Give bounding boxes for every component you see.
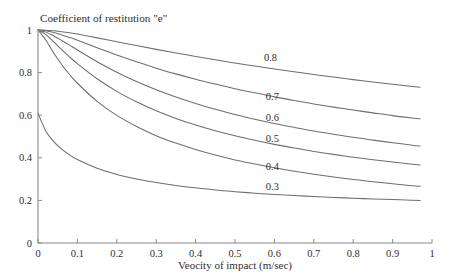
- x-tick-label: 0.9: [386, 248, 399, 259]
- x-tick-label: 0.3: [150, 248, 163, 259]
- restitution-coefficient-chart: Coefficient of restitution "e" 00.10.20.…: [0, 0, 452, 280]
- y-tick-label: 1: [27, 25, 32, 36]
- x-tick-label: 0.4: [189, 248, 203, 259]
- y-tick-label: 0.2: [19, 195, 32, 206]
- x-axis-label: Veocity of impact (m/sec): [178, 259, 292, 272]
- x-tick-label: 0.7: [307, 248, 320, 259]
- x-tick-label: 1: [429, 248, 434, 259]
- x-tick-label: 0.2: [110, 248, 123, 259]
- curve-label-0-8: 0.8: [264, 52, 277, 63]
- y-tick-label: 0: [27, 238, 32, 249]
- x-tick-label: 0.5: [228, 248, 241, 259]
- x-tick-label: 0.1: [71, 248, 84, 259]
- y-tick-label: 0.8: [19, 67, 32, 78]
- curve-label-0-3: 0.3: [266, 181, 279, 192]
- curve-label-0-6: 0.6: [266, 112, 279, 123]
- y-tick-label: 0.4: [19, 152, 33, 163]
- curve-label-0-4: 0.4: [266, 161, 280, 172]
- chart-figure: Coefficient of restitution "e" 00.10.20.…: [0, 0, 452, 280]
- curve-label-0-7: 0.7: [266, 91, 279, 102]
- x-tick-label: 0.8: [347, 248, 360, 259]
- y-tick-label: 0.6: [19, 110, 32, 121]
- x-tick-label: 0.6: [268, 248, 281, 259]
- x-tick-label: 0: [35, 248, 40, 259]
- curve-label-0-5: 0.5: [266, 133, 279, 144]
- chart-title: Coefficient of restitution "e": [40, 12, 167, 24]
- chart-background: [0, 0, 452, 280]
